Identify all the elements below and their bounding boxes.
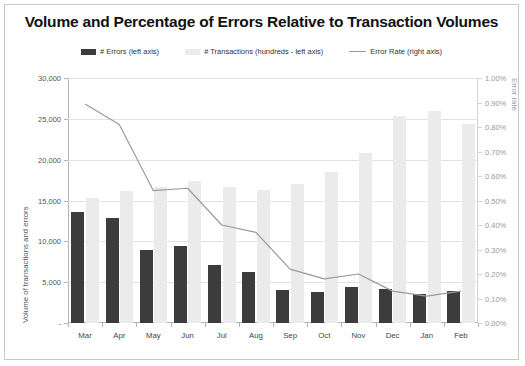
secondary-y-tick-label: 0.90% [485,98,506,107]
x-tick-label-mar: Mar [78,331,91,340]
secondary-y-tick-mark [478,103,482,104]
y-tick-label: 30,000 [38,74,61,83]
x-tick-mark [102,323,103,327]
x-tick-label-dec: Dec [386,331,400,340]
x-tick-label-jul: Jul [217,331,227,340]
chart-legend: # Errors (left axis)# Transactions (hund… [5,47,518,56]
secondary-y-tick-label: 0.50% [485,196,506,205]
y-tick-label: 5,000 [42,278,61,287]
legend-item-label: Error Rate (right axis) [370,47,442,56]
line-series-layer [68,78,478,323]
secondary-y-tick-mark [478,299,482,300]
secondary-y-tick-mark [478,250,482,251]
legend-bar-swatch-icon [185,49,200,55]
x-tick-mark [171,323,172,327]
secondary-y-tick-mark [478,274,482,275]
secondary-y-tick-label: 0.70% [485,147,506,156]
plot-area: 30,00025,00020,00015,00010,0005,000- 1.0… [68,78,478,323]
x-tick-mark [273,323,274,327]
x-tick-mark [444,323,445,327]
x-tick-mark [136,323,137,327]
x-tick-mark [68,323,69,327]
x-tick-label-oct: Oct [318,331,330,340]
x-tick-mark [410,323,411,327]
secondary-y-tick-mark [478,127,482,128]
secondary-y-tick-mark [478,225,482,226]
x-tick-label-apr: Apr [113,331,125,340]
secondary-y-tick-mark [478,176,482,177]
x-tick-mark [307,323,308,327]
y-tick-label: 15,000 [38,196,61,205]
secondary-y-tick-mark [478,201,482,202]
x-tick-mark [376,323,377,327]
error-rate-line [85,104,461,296]
x-tick-label-aug: Aug [249,331,263,340]
secondary-y-tick-label: 0.40% [485,221,506,230]
x-tick-mark [478,323,479,327]
legend-item-2[interactable]: Error Rate (right axis) [349,47,442,56]
chart-title: Volume and Percentage of Errors Relative… [5,13,518,31]
secondary-y-tick-mark [478,152,482,153]
secondary-y-tick-label: 0.00% [485,319,506,328]
x-tick-label-jan: Jan [420,331,433,340]
chart-container: Volume and Percentage of Errors Relative… [4,4,519,360]
x-tick-mark [239,323,240,327]
y-tick-label: 20,000 [38,155,61,164]
secondary-y-tick-label: 0.60% [485,172,506,181]
x-tick-label-feb: Feb [454,331,467,340]
legend-line-swatch-icon [349,51,366,52]
legend-item-label: # Transactions (hundreds - left axis) [204,47,323,56]
legend-item-label: # Errors (left axis) [100,47,159,56]
secondary-y-axis-title: Error rate [510,78,519,323]
secondary-y-tick-label: 0.80% [485,123,506,132]
x-tick-label-nov: Nov [351,331,365,340]
secondary-y-tick-label: 1.00% [485,74,506,83]
y-tick-label: - [59,319,62,328]
x-tick-label-may: May [146,331,161,340]
secondary-y-tick-label: 0.10% [485,294,506,303]
x-tick-label-sep: Sep [283,331,297,340]
x-tick-label-jun: Jun [181,331,194,340]
y-axis-title: Volume of transactions and errors [21,78,30,323]
y-tick-label: 25,000 [38,114,61,123]
legend-item-0[interactable]: # Errors (left axis) [81,47,159,56]
x-tick-mark [205,323,206,327]
secondary-y-tick-label: 0.20% [485,270,506,279]
secondary-y-tick-label: 0.30% [485,245,506,254]
legend-bar-swatch-icon [81,49,96,55]
x-tick-mark [341,323,342,327]
legend-item-1[interactable]: # Transactions (hundreds - left axis) [185,47,323,56]
secondary-y-tick-mark [478,78,482,79]
y-tick-label: 10,000 [38,237,61,246]
